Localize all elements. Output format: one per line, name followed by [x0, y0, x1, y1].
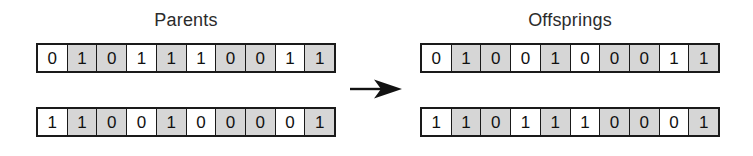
- gene-cell: 0: [38, 45, 68, 71]
- crossover-diagram: Parents 0101110011 1100100001 Offsprings…: [0, 0, 753, 156]
- parents-title: Parents: [36, 9, 336, 31]
- gene-cell: 0: [276, 109, 306, 135]
- gene-cell: 0: [660, 109, 690, 135]
- gene-cell: 0: [422, 45, 452, 71]
- gene-cell: 1: [157, 109, 187, 135]
- gene-cell: 1: [541, 45, 571, 71]
- gene-cell: 1: [305, 45, 334, 71]
- gene-cell: 1: [660, 45, 690, 71]
- gene-cell: 0: [127, 109, 157, 135]
- offsprings-title: Offsprings: [420, 9, 720, 31]
- gene-cell: 0: [481, 45, 511, 71]
- gene-cell: 1: [571, 109, 601, 135]
- gene-cell: 0: [246, 45, 276, 71]
- gene-cell: 0: [600, 45, 630, 71]
- gene-cell: 0: [216, 109, 246, 135]
- gene-cell: 0: [571, 45, 601, 71]
- gene-cell: 0: [216, 45, 246, 71]
- arrow-right-icon: [348, 78, 404, 100]
- gene-cell: 0: [481, 109, 511, 135]
- parent-2-chromosome: 1100100001: [36, 107, 336, 137]
- gene-cell: 0: [187, 109, 217, 135]
- parents-group: Parents 0101110011 1100100001: [36, 0, 336, 156]
- gene-cell: 1: [68, 45, 98, 71]
- gene-cell: 0: [630, 45, 660, 71]
- parent-1-chromosome: 0101110011: [36, 43, 336, 73]
- gene-cell: 0: [630, 109, 660, 135]
- gene-cell: 1: [276, 45, 306, 71]
- gene-cell: 1: [541, 109, 571, 135]
- gene-cell: 1: [689, 109, 718, 135]
- gene-cell: 0: [97, 45, 127, 71]
- gene-cell: 1: [511, 109, 541, 135]
- gene-cell: 1: [452, 45, 482, 71]
- gene-cell: 1: [68, 109, 98, 135]
- gene-cell: 1: [157, 45, 187, 71]
- gene-cell: 1: [305, 109, 334, 135]
- gene-cell: 1: [452, 109, 482, 135]
- gene-cell: 0: [511, 45, 541, 71]
- gene-cell: 1: [187, 45, 217, 71]
- gene-cell: 1: [38, 109, 68, 135]
- offspring-2-chromosome: 1101110001: [420, 107, 720, 137]
- gene-cell: 1: [422, 109, 452, 135]
- gene-cell: 1: [127, 45, 157, 71]
- offspring-1-chromosome: 0100100011: [420, 43, 720, 73]
- gene-cell: 0: [97, 109, 127, 135]
- gene-cell: 0: [600, 109, 630, 135]
- offsprings-group: Offsprings 0100100011 1101110001: [420, 0, 720, 156]
- gene-cell: 0: [246, 109, 276, 135]
- gene-cell: 1: [689, 45, 718, 71]
